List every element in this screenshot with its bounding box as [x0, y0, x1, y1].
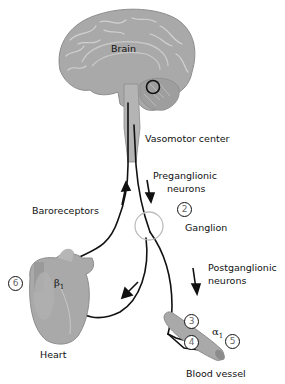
beta1-receptor-label: β1: [54, 277, 64, 291]
ganglion-ring: [135, 212, 163, 240]
autonomic-reflex-diagram: [0, 0, 285, 384]
label-heart: Heart: [40, 349, 66, 361]
label-preganglionic-neurons: neurons: [167, 183, 205, 195]
label-vasomotor-center: Vasomotor center: [145, 133, 229, 145]
label-baroreceptors: Baroreceptors: [32, 205, 99, 217]
label-ganglion: Ganglion: [185, 222, 227, 234]
marker-3: 3: [184, 314, 199, 329]
alpha1-receptor-label: α1: [212, 326, 223, 340]
label-preganglionic: Preganglionic: [153, 170, 217, 182]
direction-arrows: [122, 180, 200, 298]
heart-illustration: [30, 249, 94, 344]
marker-5: 5: [225, 334, 240, 349]
marker-2: 2: [177, 202, 192, 217]
marker-6: 6: [8, 276, 23, 291]
label-brain: Brain: [111, 43, 136, 55]
marker-4: 4: [184, 335, 199, 350]
label-postganglionic-neurons: neurons: [208, 275, 246, 287]
label-postganglionic: Postganglionic: [208, 262, 277, 274]
label-blood-vessel: Blood vessel: [186, 368, 246, 380]
